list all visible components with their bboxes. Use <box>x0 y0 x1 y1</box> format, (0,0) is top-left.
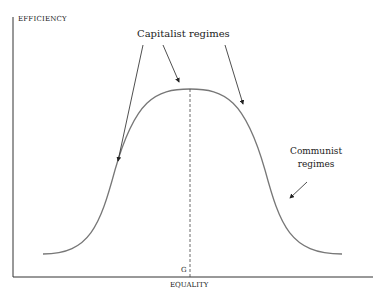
y-axis-label: EFFICIENCY <box>18 15 67 23</box>
communist-arrow <box>290 182 307 198</box>
capitalist-regimes-annotation: Capitalist regimes <box>137 28 230 39</box>
communist-line1: Communist <box>290 145 342 158</box>
communist-line2: regimes <box>290 158 342 171</box>
capitalist-arrow-middle <box>163 45 179 82</box>
efficiency-curve <box>43 89 342 254</box>
capitalist-arrow-right <box>225 45 243 104</box>
g-tick-label: G <box>181 266 187 274</box>
communist-regimes-annotation: Communist regimes <box>290 145 342 171</box>
x-axis-label: EQUALITY <box>170 281 208 289</box>
capitalist-arrow-left <box>118 45 143 161</box>
